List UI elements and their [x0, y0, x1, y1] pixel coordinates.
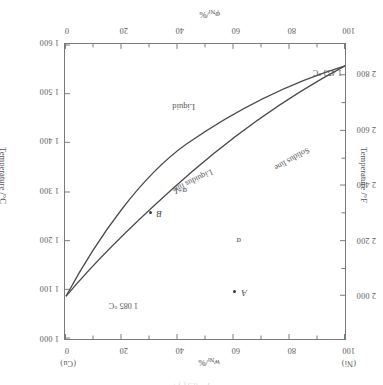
left-tick-label-2000: 2 000: [357, 291, 376, 300]
solidus-curve: [66, 66, 345, 296]
top-axis-title: wNi/%: [198, 357, 220, 368]
data-point-a-marker: [233, 290, 236, 293]
alpha-region-label: α: [237, 236, 241, 246]
right-tick-label-1400: 1 400: [40, 136, 59, 145]
right-tick-label-1200: 1 200: [40, 235, 59, 244]
right-axis-title: Temperature /°C: [0, 147, 8, 204]
top-axis-unit: /%: [198, 358, 208, 368]
left-tick-label-2400: 2 400: [357, 180, 376, 189]
left-tick-label-2800: 2 800: [357, 69, 376, 78]
bottom-axis-subscript: Ni: [209, 9, 215, 16]
plot-area: A B α α+L Liquid Liquidus line Solidus l…: [64, 43, 346, 340]
end-member-ni: (Ni): [342, 359, 356, 368]
bottom-tick-label-80: 80: [287, 26, 296, 35]
left-ticks: [340, 75, 345, 296]
top-tick-label-80: 80: [287, 346, 296, 355]
top-tick-label-0: 0: [65, 346, 69, 355]
bottom-axis-title: φNi/%: [199, 9, 220, 20]
liquidus-curve: [66, 66, 345, 296]
top-tick-label-20: 20: [119, 346, 128, 355]
left-tick-label-2600: 2 600: [357, 125, 376, 134]
data-point-a-label: A: [242, 288, 248, 298]
top-axis-subscript: Ni: [208, 357, 214, 364]
bottom-axis-unit: /%: [199, 10, 209, 20]
phase-diagram-figure: T = 0.5 ( ) + wNi/% (Ni) (Cu) 100 80 60 …: [0, 0, 383, 385]
top-tick-label-60: 60: [231, 346, 240, 355]
phase-boundary-curves: [65, 44, 345, 339]
left-axis-title: Temperature /°F: [359, 147, 369, 203]
end-member-cu: (Cu): [60, 359, 76, 368]
bottom-axis-symbol: φ: [215, 10, 220, 20]
top-axis-symbol: w: [214, 358, 220, 368]
rotated-figure-wrapper: T = 0.5 ( ) + wNi/% (Ni) (Cu) 100 80 60 …: [0, 0, 383, 385]
liquid-region-label: Liquid: [172, 102, 195, 112]
right-tick-label-1600: 1 600: [40, 38, 59, 47]
right-tick-label-1100: 1 100: [40, 284, 59, 293]
right-tick-label-1500: 1 500: [40, 87, 59, 96]
bottom-tick-label-60: 60: [231, 26, 240, 35]
data-point-b-marker: [149, 211, 152, 214]
top-tick-label-100: 100: [342, 346, 355, 355]
bottom-tick-label-100: 100: [342, 26, 355, 35]
data-point-b-label: B: [157, 209, 163, 219]
bottom-tick-label-0: 0: [65, 26, 69, 35]
bottom-ticks: [65, 44, 344, 49]
left-tick-label-2200: 2 200: [357, 236, 376, 245]
bottom-tick-label-40: 40: [175, 26, 184, 35]
right-tick-label-1000: 1 000: [40, 334, 59, 343]
top-tick-label-40: 40: [175, 346, 184, 355]
cu-melting-point-label: 1 085 °C: [109, 301, 138, 310]
ni-melting-point-label: 1 453 °C: [313, 68, 342, 77]
top-ticks: [65, 334, 344, 339]
bottom-tick-label-20: 20: [119, 26, 128, 35]
clipped-header-text: T = 0.5 ( ) +: [0, 373, 383, 385]
right-tick-label-1300: 1 300: [40, 186, 59, 195]
